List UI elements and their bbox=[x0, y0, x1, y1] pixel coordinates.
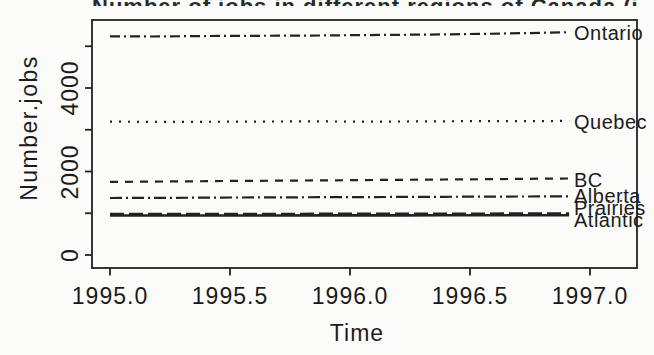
series-line-quebec bbox=[110, 121, 569, 122]
x-tick-label: 1995.0 bbox=[72, 283, 148, 310]
x-tick-label: 1996.5 bbox=[432, 283, 508, 310]
x-tick-label: 1996.0 bbox=[312, 283, 388, 310]
x-axis-label: Time bbox=[330, 320, 384, 347]
y-axis-label: Number.jobs bbox=[16, 55, 43, 201]
y-tick-label: 4000 bbox=[57, 60, 84, 115]
series-label-ontario: Ontario bbox=[574, 22, 643, 45]
series-label-quebec: Quebec bbox=[574, 110, 647, 133]
x-tick-label: 1995.5 bbox=[192, 283, 268, 310]
series-line-bc bbox=[110, 179, 569, 182]
y-tick-label: 2000 bbox=[57, 144, 84, 199]
series-line-alberta bbox=[110, 196, 569, 198]
figure-root: { "figure": { "title_cropped": "Number o… bbox=[0, 0, 654, 355]
y-tick-label: 0 bbox=[57, 248, 84, 262]
series-label-atlantic: Atlantic bbox=[574, 208, 644, 231]
series-line-prairies bbox=[110, 214, 569, 215]
series-line-ontario bbox=[110, 32, 569, 36]
plot-border bbox=[92, 20, 637, 268]
x-tick-label: 1997.0 bbox=[552, 283, 628, 310]
